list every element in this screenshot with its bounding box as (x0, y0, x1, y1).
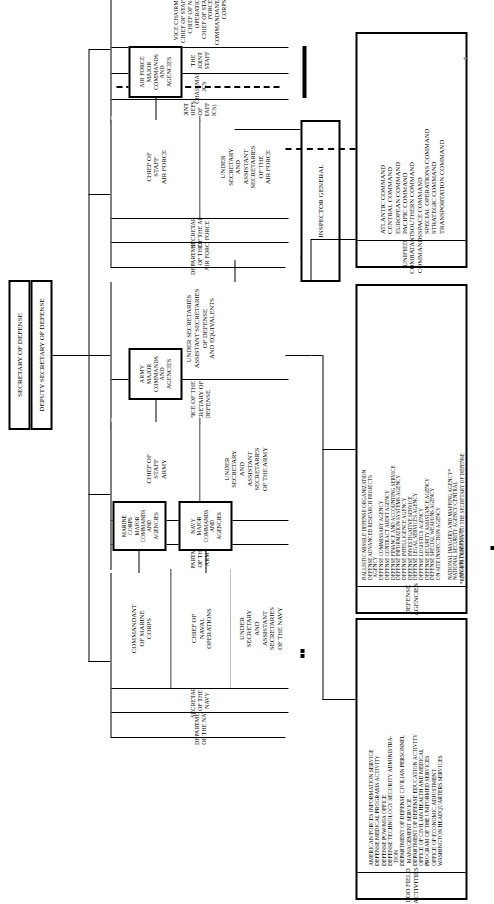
list-item: DEPARTMENT OF DEFENSE EDUCATION ACTIVITY (411, 734, 417, 866)
unified-combatant-commands-header: UNIFIED COMBATANT COMMANDS (357, 240, 465, 266)
unified-combatant-commands-items: ATLANTIC COMMANDCENTRAL COMMANDEUROPEAN … (378, 129, 444, 234)
inspector-general-box-real: INSPECTOR GENERAL (300, 120, 340, 282)
unified-combatant-commands-box: UNIFIED COMBATANT COMMANDS ATLANTIC COMM… (355, 32, 467, 268)
defense-agencies-items: BALLISTIC MISSILE DEFENSE ORGANIZATIONDE… (361, 466, 464, 581)
navy-commandant-marine-corps-cell: COMMANDANT OF MARINE CORPS (111, 569, 171, 688)
army-major-commands-label: ARMY MAJOR COMMANDS AND AGENCIES (138, 356, 173, 392)
dod-field-activities-header: DOD FIELD ACTIVITIES (357, 872, 465, 898)
osd-to-agencies-vertical (311, 355, 322, 356)
army-major-commands-box: ARMY MAJOR COMMANDS AND AGENCIES (128, 348, 182, 400)
branch-vertical-osd (88, 355, 110, 356)
agencies-spine-horizontal (322, 450, 323, 700)
list-item: DEFENSE POW/MIA OFFICE (380, 734, 386, 866)
branch-vertical-army (88, 494, 110, 495)
marine-corps-commands-box: MARINE CORPS MAJOR COMMANDS AND AGENCIES (112, 501, 166, 551)
connector-army-commands (155, 400, 156, 422)
osd-down-vertical (285, 355, 311, 356)
list-item: STRATEGIC COMMAND (429, 129, 436, 234)
connector-inspector-general (234, 260, 235, 282)
airforce-major-commands-label: AIR FORCE MAJOR COMMANDS AND AGENCIES (138, 54, 173, 90)
airforce-major-commands-box-real: AIR FORCE MAJOR COMMANDS AND AGENCIES (128, 46, 182, 98)
list-item: CENTRAL COMMAND (385, 129, 392, 234)
list-item: AMERICAN FORCES INFORMATION SERVICE (367, 734, 373, 866)
jcs-members-cell: VICE CHAIRMAN, JCS CHIEF OF STAFF, ARMY … (111, 0, 288, 47)
branch-vertical-navy (88, 661, 110, 662)
unified-combatant-commands-list: ATLANTIC COMMANDCENTRAL COMMANDEUROPEAN … (357, 34, 465, 240)
list-item: TRANSPORTATION COMMAND (437, 129, 444, 234)
defense-agencies-footnote-wrap: *REPORTS DIRECTLY TO THE SECRETARY OF DE… (449, 453, 467, 584)
osd-under-secretaries-label: UNDER SECRETARIES ASSISTANT SECRETARIES … (184, 289, 214, 369)
marine-corps-major-commands-box (300, 649, 304, 653)
list-item: OFFICE OF CIVILIAN HEALTH AND MEDICAL (417, 734, 423, 866)
defense-agencies-box (490, 546, 494, 550)
airforce-under-secretary-label: UNDER SECRETARY AND ASSISTANT SECRETARIE… (218, 145, 271, 188)
spine-horizontal-main (88, 50, 89, 662)
navy-major-commands-label: NAVY MAJOR COMMANDS AND AGENCIES (189, 510, 221, 543)
jcs-to-ucc-dashed (285, 148, 355, 150)
marine-corps-commands-label: MARINE CORPS MAJOR COMMANDS AND AGENCIES (120, 510, 158, 543)
trunk-vertical-main (52, 355, 88, 356)
list-item: MANAGEMENT SERVICE (405, 734, 411, 866)
navy-under-secretary-cell: UNDER SECRETARY AND ASSISTANT SECRETARIE… (230, 569, 289, 688)
scan-artifact-speck (463, 57, 466, 60)
navy-secretary-cell: SECRETARY OF THE NAVY (111, 688, 288, 712)
list-item: PACIFIC COMMAND (400, 129, 407, 234)
spine-to-ucc-vertical (310, 239, 355, 240)
osd-to-agencies-horizontal (322, 355, 323, 450)
deputy-secretary-of-defense-label: DEPUTY SECRETARY OF DEFENSE (37, 298, 45, 411)
connector-marine-commands (138, 551, 139, 573)
navy-chief-of-naval-operations-cell: CHIEF OF NAVAL OPERATIONS (171, 569, 231, 688)
list-item: ON-SITE INSPECTION AGENCY (435, 466, 441, 581)
inspector-general-label: INSPECTOR GENERAL (316, 164, 324, 237)
secretary-of-defense-label: SECRETARY OF DEFENSE (15, 313, 23, 397)
airforce-secretary-cell: SECRETARY OF THE AIR FORCE (111, 218, 288, 242)
branch-vertical-airforce (88, 194, 110, 195)
deputy-secretary-of-defense-box: DEPUTY SECRETARY OF DEFENSE (30, 280, 52, 430)
list-item: SPACE COMMAND (415, 129, 422, 234)
dod-field-activities-box: DOD FIELD ACTIVITIES AMERICAN FORCES INF… (355, 618, 467, 900)
list-item: DEFENSE TECHNOLOGY SECURITY ADMINISTRA- (386, 734, 392, 866)
defense-agencies-footnote: *REPORTS DIRECTLY TO THE SECRETARY OF DE… (458, 453, 464, 584)
branch-vertical-jcs (88, 49, 110, 50)
connector-inspector-general-v (234, 129, 300, 130)
navy-chief-of-naval-operations-label: CHIEF OF NAVAL OPERATIONS (189, 608, 212, 648)
jcs-joint-staff-label: THE JOINT STAFF (189, 48, 210, 73)
list-item: DEFENSE MEDICAL PROGRAMS ACTIVITY (373, 734, 379, 866)
dod-field-activities-list: AMERICAN FORCES INFORMATION SERVICEDEFEN… (357, 620, 465, 872)
agencies-vertical-defense (322, 449, 355, 450)
department-of-the-navy-group: DEPARTMENT OF THE NAVY SECRETARY OF THE … (110, 573, 285, 738)
osd-to-ucc-horizontal (310, 240, 311, 282)
navy-under-secretary-label: UNDER SECRETARY AND ASSISTANT SECRETARIE… (237, 607, 282, 650)
dod-field-activities-items: AMERICAN FORCES INFORMATION SERVICEDEFEN… (367, 734, 442, 866)
army-under-secretary-label: UNDER SECRETARY AND ASSISTANT SECRETARIE… (222, 447, 267, 491)
agencies-vertical-field (322, 699, 355, 700)
airforce-major-commands-box (302, 46, 306, 98)
airforce-secretary-label: SECRETARY OF THE AIR FORCE (189, 213, 210, 248)
list-item: PROGRAM OF THE UNIFORMED SERVICES (423, 734, 429, 866)
list-item: EUROPEAN COMMAND (393, 129, 400, 234)
list-item: TION (392, 734, 398, 866)
navy-commandant-marine-corps-label: COMMANDANT OF MARINE CORPS (129, 604, 152, 653)
airforce-chief-of-staff-label: CHIEF OF STAFF AIR FORCE (144, 150, 167, 184)
list-item: SPECIAL OPERATIONS COMMAND (422, 129, 429, 234)
marine-corps-major-commands-box-real (300, 654, 304, 658)
list-item: SOUTHERN COMMAND (407, 129, 414, 234)
army-chief-of-staff-label: CHIEF OF STAFF ARMY (144, 454, 167, 483)
list-item: OFFICE OF ECONOMIC ADJUSTMENT (430, 734, 436, 866)
list-item: WASHINGTON HEADQUARTERS SERVICES (436, 734, 442, 866)
navy-major-commands-box: NAVY MAJOR COMMANDS AND AGENCIES (178, 501, 232, 551)
navy-secretary-label: SECRETARY OF THE NAVY (189, 683, 210, 718)
list-item: ATLANTIC COMMAND (378, 129, 385, 234)
list-item: DEPARTMENT OF DEFENSE CIVILIAN PERSONNEL (398, 734, 404, 866)
connector-navy-commands (205, 551, 206, 573)
secretary-of-defense-box: SECRETARY OF DEFENSE (8, 280, 30, 430)
connector-airforce-commands (155, 98, 156, 120)
airforce-under-secretary-cell: UNDER SECRETARY AND ASSISTANT SECRETARIE… (200, 116, 289, 218)
airforce-chief-of-staff-cell: CHIEF OF STAFF AIR FORCE (111, 116, 200, 218)
jcs-members-label: VICE CHAIRMAN, JCS CHIEF OF STAFF, ARMY … (172, 0, 228, 47)
defense-agencies-header: DEFENSE AGENCIES (357, 586, 465, 612)
department-of-the-air-force-group: DEPARTMENT OF THE AIR FORCE SECRETARY OF… (110, 120, 285, 268)
